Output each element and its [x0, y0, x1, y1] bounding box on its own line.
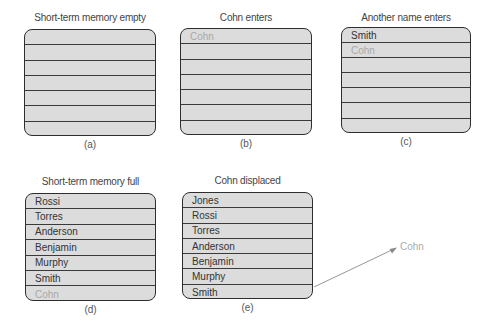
displacement-arrow-icon [0, 0, 487, 330]
displaced-item-label: Cohn [400, 241, 424, 252]
